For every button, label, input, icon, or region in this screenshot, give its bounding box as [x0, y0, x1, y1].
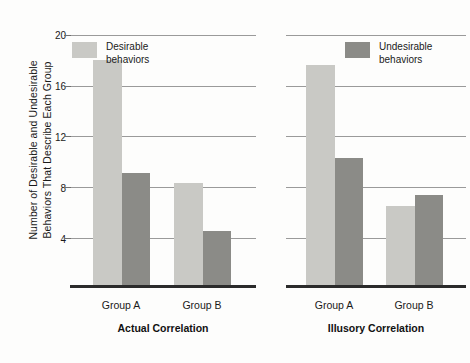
- bar-chart-figure: Number of Desirable and Undesirable Beha…: [0, 0, 470, 363]
- y-tick-16: 16: [44, 81, 66, 92]
- legend-right: Undesirable behaviors: [345, 41, 432, 66]
- bar-left-groupA-desirable: [93, 60, 122, 285]
- panel-title-actual-correlation: Actual Correlation: [70, 322, 256, 334]
- x-label-right-groupA: Group A: [304, 299, 364, 311]
- y-tick-4: 4: [44, 234, 66, 245]
- panel-title-illusory-correlation: Illusory Correlation: [286, 322, 466, 334]
- legend-left: Desirable behaviors: [72, 41, 149, 66]
- plot-area-right: [286, 35, 466, 288]
- legend-swatch-undesirable-icon: [345, 42, 370, 58]
- y-axis-tick-labels: 20 16 12 8 4: [44, 0, 66, 363]
- bar-right-groupB-desirable: [386, 206, 415, 285]
- legend-label-desirable: Desirable behaviors: [106, 41, 149, 66]
- bars-left: [70, 35, 256, 285]
- bars-right: [286, 35, 466, 285]
- bar-right-groupA-undesirable: [335, 158, 363, 285]
- x-label-left-groupA: Group A: [91, 299, 151, 311]
- bar-left-groupB-undesirable: [203, 231, 231, 285]
- bar-left-groupB-desirable: [174, 183, 203, 285]
- legend-label-undesirable: Undesirable behaviors: [379, 41, 432, 66]
- x-axis-line-left: [70, 285, 256, 288]
- bar-right-groupB-undesirable: [415, 195, 443, 285]
- bar-right-groupA-desirable: [306, 65, 335, 285]
- legend-swatch-desirable-icon: [72, 42, 97, 58]
- x-label-left-groupB: Group B: [172, 299, 232, 311]
- bar-left-groupA-undesirable: [122, 173, 150, 285]
- x-label-right-groupB: Group B: [384, 299, 444, 311]
- y-tick-20: 20: [44, 30, 66, 41]
- x-axis-line-right: [286, 285, 466, 288]
- y-tick-8: 8: [44, 183, 66, 194]
- plot-area-left: [70, 35, 256, 288]
- y-tick-12: 12: [44, 132, 66, 143]
